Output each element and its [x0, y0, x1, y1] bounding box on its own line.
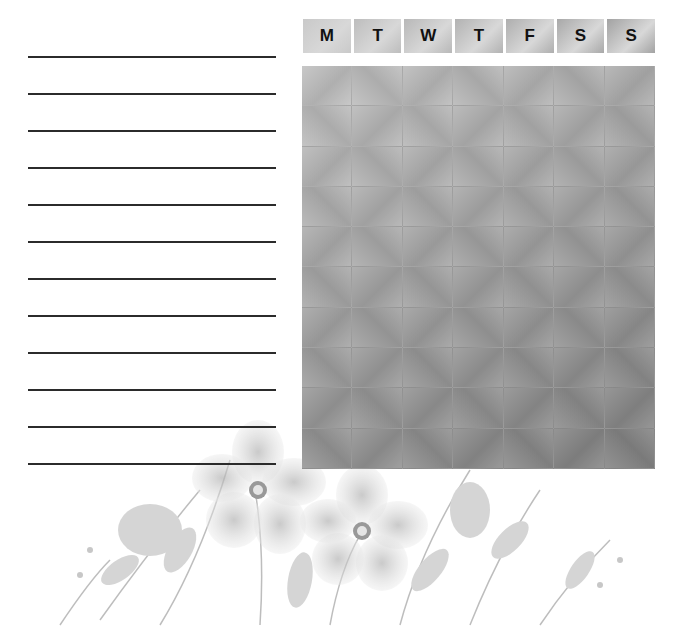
tracker-cell[interactable]: [453, 308, 503, 348]
habit-line[interactable]: [28, 278, 276, 280]
tracker-cell[interactable]: [352, 187, 402, 227]
tracker-cell[interactable]: [352, 429, 402, 469]
tracker-cell[interactable]: [554, 147, 604, 187]
tracker-cell[interactable]: [504, 187, 554, 227]
tracker-cell[interactable]: [352, 308, 402, 348]
tracker-cell[interactable]: [403, 267, 453, 307]
habit-line[interactable]: [28, 463, 276, 465]
tracker-cell[interactable]: [302, 429, 352, 469]
tracker-cell[interactable]: [504, 388, 554, 428]
tracker-cell[interactable]: [605, 66, 655, 106]
tracker-cell[interactable]: [352, 348, 402, 388]
tracker-cell[interactable]: [453, 187, 503, 227]
tracker-cell[interactable]: [554, 308, 604, 348]
weekday-header: MTWTFSS: [303, 19, 655, 53]
tracker-cell[interactable]: [302, 147, 352, 187]
tracker-cell[interactable]: [554, 388, 604, 428]
tracker-cell[interactable]: [554, 106, 604, 146]
tracker-cell[interactable]: [352, 147, 402, 187]
tracker-cell[interactable]: [352, 66, 402, 106]
day-header-cell: F: [506, 19, 554, 53]
tracker-cell[interactable]: [453, 66, 503, 106]
day-header-cell: T: [354, 19, 402, 53]
tracker-cell[interactable]: [554, 429, 604, 469]
tracker-cell[interactable]: [453, 227, 503, 267]
tracker-cell[interactable]: [403, 66, 453, 106]
tracker-cell[interactable]: [504, 106, 554, 146]
tracker-cell[interactable]: [302, 106, 352, 146]
tracker-cell[interactable]: [453, 348, 503, 388]
habit-line[interactable]: [28, 352, 276, 354]
tracker-cell[interactable]: [605, 147, 655, 187]
tracker-cell[interactable]: [403, 227, 453, 267]
tracker-cell[interactable]: [605, 429, 655, 469]
tracker-cell[interactable]: [554, 267, 604, 307]
day-header-cell: W: [404, 19, 452, 53]
tracker-cell[interactable]: [605, 348, 655, 388]
habit-line[interactable]: [28, 93, 276, 95]
tracker-cell[interactable]: [403, 187, 453, 227]
day-header-cell: S: [557, 19, 605, 53]
tracker-cell[interactable]: [403, 147, 453, 187]
tracker-cell[interactable]: [352, 227, 402, 267]
tracker-cell[interactable]: [302, 308, 352, 348]
tracker-cell[interactable]: [605, 106, 655, 146]
tracker-cell[interactable]: [605, 187, 655, 227]
tracker-cell[interactable]: [504, 267, 554, 307]
tracker-cell[interactable]: [504, 227, 554, 267]
tracker-cell[interactable]: [554, 187, 604, 227]
tracker-cell[interactable]: [302, 388, 352, 428]
habit-name-lines: [28, 0, 276, 480]
tracker-cell[interactable]: [453, 388, 503, 428]
habit-tracker-page: MTWTFSS: [0, 0, 674, 634]
habit-line[interactable]: [28, 389, 276, 391]
tracker-grid: [302, 66, 655, 469]
tracker-cell[interactable]: [453, 147, 503, 187]
tracker-cell[interactable]: [302, 348, 352, 388]
tracker-cell[interactable]: [453, 106, 503, 146]
tracker-cell[interactable]: [302, 187, 352, 227]
tracker-cell[interactable]: [403, 388, 453, 428]
habit-line[interactable]: [28, 241, 276, 243]
tracker-cell[interactable]: [605, 388, 655, 428]
tracker-cell[interactable]: [504, 308, 554, 348]
tracker-cell[interactable]: [554, 227, 604, 267]
habit-line[interactable]: [28, 204, 276, 206]
habit-line[interactable]: [28, 315, 276, 317]
tracker-cell[interactable]: [302, 66, 352, 106]
tracker-cell[interactable]: [403, 308, 453, 348]
day-header-cell: T: [455, 19, 503, 53]
habit-line[interactable]: [28, 56, 276, 58]
tracker-cell[interactable]: [504, 429, 554, 469]
tracker-cell[interactable]: [302, 227, 352, 267]
tracker-cell[interactable]: [504, 147, 554, 187]
habit-line[interactable]: [28, 130, 276, 132]
tracker-cell[interactable]: [352, 267, 402, 307]
tracker-cell[interactable]: [554, 66, 604, 106]
tracker-cell[interactable]: [352, 106, 402, 146]
tracker-cell[interactable]: [403, 348, 453, 388]
tracker-cell[interactable]: [403, 429, 453, 469]
tracker-cell[interactable]: [453, 267, 503, 307]
tracker-cell[interactable]: [504, 66, 554, 106]
tracker-cell[interactable]: [504, 348, 554, 388]
tracker-cell[interactable]: [453, 429, 503, 469]
tracker-cell[interactable]: [605, 227, 655, 267]
habit-line[interactable]: [28, 167, 276, 169]
day-header-cell: M: [303, 19, 351, 53]
tracker-cell[interactable]: [403, 106, 453, 146]
habit-line[interactable]: [28, 426, 276, 428]
tracker-cell[interactable]: [302, 267, 352, 307]
tracker-cell[interactable]: [605, 308, 655, 348]
day-header-cell: S: [607, 19, 655, 53]
tracker-cell[interactable]: [352, 388, 402, 428]
tracker-cell[interactable]: [605, 267, 655, 307]
tracker-cell[interactable]: [554, 348, 604, 388]
